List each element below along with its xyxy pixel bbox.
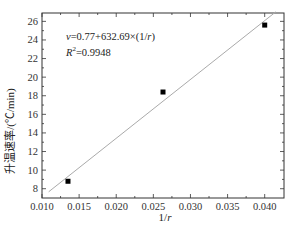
r-squared-line: R2=0.9948 (66, 43, 155, 59)
data-point (262, 23, 267, 28)
x-tick-label: 0.020 (104, 201, 128, 212)
y-tick-label: 18 (28, 90, 39, 101)
y-tick-label: 20 (28, 72, 39, 83)
x-axis-label: 1/r (140, 211, 190, 223)
y-tick-label: 24 (28, 34, 39, 45)
y-tick-label: 14 (28, 127, 39, 138)
x-tick-label: 0.010 (30, 201, 54, 212)
data-point (161, 90, 166, 95)
y-tick-label: 22 (28, 53, 39, 64)
regression-equation: v=0.77+632.69×(1/r) R2=0.9948 (66, 30, 155, 59)
y-tick-label: 8 (33, 183, 38, 194)
data-point (65, 179, 70, 184)
x-tick-label: 0.035 (216, 201, 240, 212)
y-axis-label: 升温速率/(℃/min) (2, 56, 16, 206)
equation-line: v=0.77+632.69×(1/r) (66, 30, 155, 43)
y-tick-label: 12 (28, 146, 39, 157)
x-tick-label: 0.015 (67, 201, 91, 212)
y-tick-label: 16 (28, 109, 39, 120)
y-tick-label: 10 (28, 165, 39, 176)
y-tick-label: 26 (28, 16, 39, 27)
x-tick-label: 0.040 (253, 201, 277, 212)
